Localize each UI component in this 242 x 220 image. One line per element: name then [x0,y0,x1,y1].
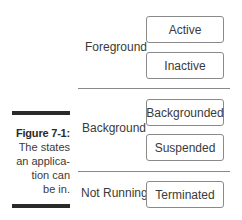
caption-line: an applica- [0,154,70,168]
group-label-background: Background [82,121,146,135]
caption-line: The states [0,140,70,154]
state-label: Suspended [155,141,216,155]
state-label: Inactive [164,59,205,73]
state-label: Backgrounded [146,106,223,120]
state-label: Active [169,23,202,37]
figure-label: Figure 7-1: [0,126,70,140]
caption-line: be in. [0,182,70,196]
state-label: Terminated [155,188,214,202]
state-box-inactive: Inactive [146,52,224,79]
group-label-foreground: Foreground [85,40,147,54]
state-box-terminated: Terminated [146,181,224,208]
state-box-backgrounded: Backgrounded [146,99,224,126]
figure-caption: Figure 7-1: The states an applica- tion … [0,126,70,196]
caption-bottom-rule [12,204,70,208]
state-box-active: Active [146,16,224,43]
group-label-not-running: Not Running [81,186,148,200]
caption-top-rule [12,111,70,115]
caption-line: tion can [0,168,70,182]
group-divider [78,171,230,172]
state-box-suspended: Suspended [146,134,224,161]
group-divider [78,88,230,89]
